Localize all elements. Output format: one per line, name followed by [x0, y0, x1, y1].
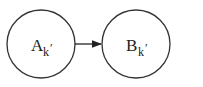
node-a-prime: ′ — [50, 41, 53, 55]
node-a-subscript: k — [43, 45, 49, 59]
node-b-subscript: k — [138, 45, 144, 59]
node-b: B k ′ — [102, 10, 170, 78]
node-b-label: B — [126, 36, 137, 55]
node-b-prime: ′ — [145, 41, 148, 55]
diagram-canvas: A k ′ B k ′ — [0, 0, 203, 87]
node-a: A k ′ — [7, 10, 75, 78]
